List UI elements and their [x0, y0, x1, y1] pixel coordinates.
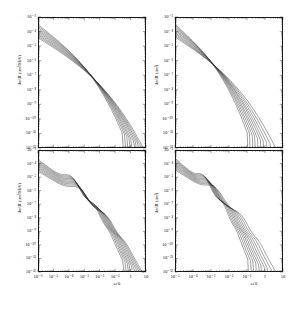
x-tick-label: 10⁻¹	[111, 275, 120, 280]
y-tick-label: 10⁻¹¹	[158, 256, 173, 261]
data-curve	[175, 30, 258, 148]
x-tick-label: 10⁻⁶	[33, 275, 42, 280]
data-curve	[175, 160, 251, 272]
x-tick-label: 10	[281, 275, 286, 280]
y-tick-label: 10⁻⁴	[21, 161, 36, 166]
y-tick-label: 10⁻⁵	[158, 44, 173, 49]
y-tick-label: 10⁻⁹	[158, 229, 173, 234]
data-curve	[175, 28, 255, 148]
tick-marks	[175, 150, 283, 272]
data-curve	[175, 31, 261, 148]
data-curve	[38, 33, 136, 148]
x-tick-label: 10⁻²	[225, 275, 234, 280]
y-axis-label: dσ/dT (cm²/MeV)	[17, 183, 22, 213]
x-tick-label: 10⁻³	[207, 275, 216, 280]
y-tick-label: 10⁻⁶	[21, 188, 36, 193]
data-curve	[38, 161, 126, 272]
data-curve	[38, 36, 141, 148]
figure-root: 10⁻³10⁻⁴10⁻⁵10⁻⁶10⁻⁷10⁻⁸10⁻⁹10⁻¹⁰10⁻¹¹10…	[0, 0, 297, 313]
data-curve	[175, 169, 272, 272]
x-tick-label: 10⁻⁴	[188, 275, 197, 280]
y-tick-label: 10⁻¹⁰	[21, 243, 36, 248]
y-tick-label: 10⁻³	[21, 15, 36, 20]
data-curve	[38, 25, 123, 148]
y-axis-label: dσ/dT (cm²)	[154, 65, 159, 85]
tick-marks	[38, 150, 146, 272]
x-axis-label: ω/θ	[114, 282, 121, 287]
plot-panel-bottom-left: 10⁻³10⁻⁴10⁻⁵10⁻⁶10⁻⁷10⁻⁸10⁻⁹10⁻¹⁰10⁻¹¹10…	[38, 150, 146, 272]
curves-layer	[38, 150, 146, 272]
y-tick-label: 10⁻⁹	[158, 102, 173, 107]
y-tick-label: 10⁻⁹	[21, 102, 36, 107]
y-tick-label: 10⁻⁷	[21, 202, 36, 207]
curves-layer	[38, 17, 146, 148]
plot-panel-top-right: 10⁻³10⁻⁴10⁻⁵10⁻⁶10⁻⁷10⁻⁸10⁻⁹10⁻¹⁰10⁻¹¹10…	[175, 17, 283, 148]
y-tick-label: 10⁻⁴	[158, 161, 173, 166]
x-tick-label: 10	[144, 275, 149, 280]
x-tick-label: 1	[264, 275, 266, 280]
x-tick-label: 10⁻²	[95, 275, 104, 280]
y-tick-label: 10⁻¹⁰	[158, 117, 173, 122]
x-tick-label: 1	[129, 275, 131, 280]
y-tick-label: 10⁻⁷	[158, 73, 173, 78]
y-tick-label: 10⁻¹¹	[158, 131, 173, 136]
y-tick-label: 10⁻³	[21, 148, 36, 153]
x-tick-label: 10⁻¹	[243, 275, 252, 280]
data-curve	[38, 30, 132, 148]
y-tick-label: 10⁻⁶	[158, 58, 173, 63]
plot-panel-bottom-right: 10⁻³10⁻⁴10⁻⁵10⁻⁶10⁻⁷10⁻⁸10⁻⁹10⁻¹⁰10⁻¹¹10…	[175, 150, 283, 272]
data-curve	[175, 37, 275, 148]
y-tick-label: 10⁻¹¹	[21, 256, 36, 261]
data-curve	[38, 165, 132, 272]
data-curve	[38, 166, 135, 272]
data-curve	[38, 171, 144, 272]
y-tick-label: 10⁻³	[158, 148, 173, 153]
x-tick-label: 10⁻⁵	[49, 275, 58, 280]
x-axis-label: ω/θ	[251, 282, 258, 287]
y-tick-label: 10⁻¹¹	[21, 131, 36, 136]
y-tick-label: 10⁻⁶	[158, 188, 173, 193]
curves-layer	[175, 17, 283, 148]
data-curve	[175, 170, 276, 272]
x-tick-label: 10⁻⁵	[170, 275, 179, 280]
y-axis-label: dσ/dT (cm²)	[154, 193, 159, 213]
y-tick-label: 10⁻⁸	[158, 87, 173, 92]
y-tick-label: 10⁻¹⁰	[158, 243, 173, 248]
data-curve	[175, 34, 267, 148]
y-tick-label: 10⁻¹⁰	[21, 117, 36, 122]
data-curve	[175, 166, 265, 272]
data-curve	[38, 170, 142, 272]
y-tick-label: 10⁻⁴	[21, 29, 36, 34]
y-tick-label: 10⁻⁸	[21, 87, 36, 92]
y-axis-label: dσ/dT (cm²/MeV)	[17, 55, 22, 85]
data-curve	[175, 35, 271, 148]
y-tick-label: 10⁻⁵	[21, 175, 36, 180]
y-tick-label: 10⁻⁷	[158, 202, 173, 207]
data-curve	[38, 28, 128, 149]
data-curve	[38, 35, 139, 148]
data-curve	[175, 167, 268, 272]
data-curve	[175, 162, 256, 272]
data-curve	[175, 26, 250, 148]
y-tick-label: 10⁻⁹	[21, 229, 36, 234]
plot-panel-top-left: 10⁻³10⁻⁴10⁻⁵10⁻⁶10⁻⁷10⁻⁸10⁻⁹10⁻¹⁰10⁻¹¹10…	[38, 17, 146, 148]
y-tick-label: 10⁻³	[158, 15, 173, 20]
data-curve	[38, 162, 128, 272]
y-tick-label: 10⁻⁷	[21, 73, 36, 78]
data-curve	[38, 32, 135, 148]
y-tick-label: 10⁻⁶	[21, 58, 36, 63]
y-tick-label: 10⁻⁵	[158, 175, 173, 180]
data-curve	[38, 26, 126, 148]
x-tick-label: 10⁻³	[80, 275, 89, 280]
curves-layer	[175, 150, 283, 272]
y-tick-label: 10⁻⁵	[21, 44, 36, 49]
data-curve	[175, 24, 248, 148]
y-tick-label: 10⁻⁴	[158, 29, 173, 34]
y-tick-label: 10⁻⁸	[158, 215, 173, 220]
x-tick-label: 10⁻⁴	[64, 275, 73, 280]
y-tick-label: 10⁻⁸	[21, 215, 36, 220]
